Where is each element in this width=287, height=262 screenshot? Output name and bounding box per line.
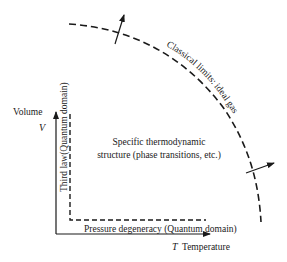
third-law-label: Third law(Quantum domain) xyxy=(59,82,70,192)
y-axis-symbol: V xyxy=(39,122,47,133)
right-crossing-arrow xyxy=(246,163,274,173)
x-axis-symbol: T xyxy=(172,241,179,252)
center-label-line2: structure (phase transitions, etc.) xyxy=(97,150,221,161)
center-label-line1: Specific thermodynamic xyxy=(112,137,205,147)
quantum-boundary-dashed xyxy=(70,114,206,220)
thermodynamic-domains-diagram: Volume V T Temperature Third law(Quantum… xyxy=(0,0,287,262)
classical-limit-label: Classical limits: ideal gas xyxy=(165,39,240,115)
pressure-degeneracy-label: Pressure degeneracy (Quantum domain) xyxy=(84,224,237,235)
top-crossing-arrow xyxy=(115,15,124,44)
x-axis-label: Temperature xyxy=(182,242,230,252)
y-axis-label: Volume xyxy=(13,107,42,117)
classical-limit-arc xyxy=(69,24,261,222)
